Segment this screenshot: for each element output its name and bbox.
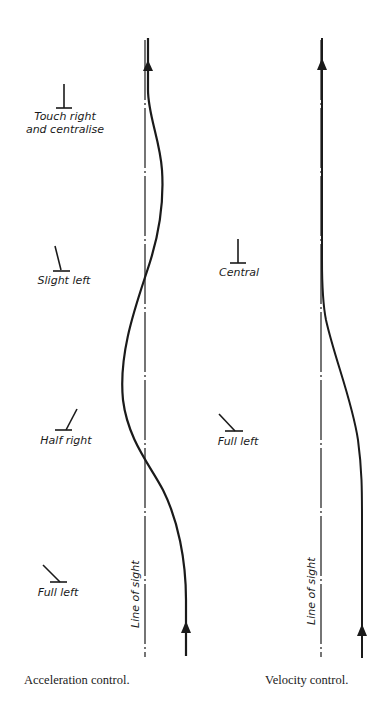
stick-slight-left-icon — [53, 246, 70, 271]
velocity-flight-path — [322, 38, 362, 658]
stick-full-left-icon — [43, 565, 67, 582]
velocity-label-central: Central — [212, 266, 266, 279]
label-line: and centralise — [22, 123, 108, 136]
stick-central-icon — [230, 239, 246, 263]
velocity-diagram — [219, 38, 367, 658]
velocity-arrow-top-icon — [317, 58, 327, 70]
acceleration-label-full-left: Full left — [30, 586, 86, 599]
label-text: Central — [219, 266, 259, 279]
acceleration-arrow-bottom-icon — [181, 621, 191, 633]
velocity-caption: Velocity control. — [265, 673, 348, 688]
diagram-canvas — [0, 0, 389, 713]
velocity-line-of-sight-label: Line of sight — [305, 557, 318, 625]
label-text: Half right — [40, 434, 91, 447]
stick-full-left-icon — [219, 414, 243, 431]
label-text: Full left — [218, 435, 258, 448]
velocity-label-full-left: Full left — [210, 435, 266, 448]
velocity-arrow-bottom-icon — [357, 624, 367, 636]
label-line: Touch right — [22, 110, 108, 123]
acceleration-line-of-sight-label: Line of sight — [129, 560, 142, 628]
stick-central-icon — [56, 84, 72, 108]
label-text: Slight left — [38, 274, 91, 287]
acceleration-label-slight-left: Slight left — [32, 274, 96, 287]
acceleration-caption: Acceleration control. — [24, 673, 130, 688]
acceleration-label-half-right: Half right — [34, 434, 98, 447]
label-text: Full left — [38, 586, 78, 599]
acceleration-label-touch-right: Touch right and centralise — [22, 110, 108, 136]
stick-half-right-icon — [55, 409, 77, 430]
